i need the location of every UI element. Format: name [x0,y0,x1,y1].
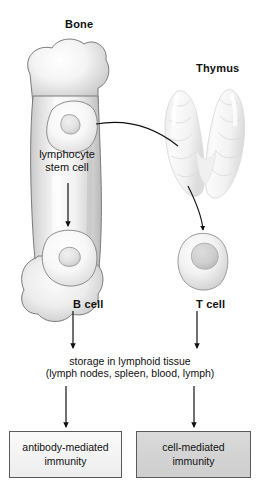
cell-mediated-immunity-text: cell-mediated immunity [137,432,250,477]
storage-label: storage in lymphoid tissue (lymph nodes,… [46,355,215,380]
t-cell-nucleus [191,243,218,269]
bone-label: Bone [65,18,93,31]
b-cell-label: B cell [73,298,104,311]
antibody-box-line2: immunity [44,455,86,467]
thymus-label: Thymus [196,62,239,75]
thymus-illustration [165,89,245,198]
cell-box-line1: cell-mediated [162,441,224,453]
thymus-left-lobe [165,91,205,197]
lymphocyte-stem-cell-label: lymphocyte stem cell [39,148,95,174]
stem-cell-label-line2: stem cell [39,161,95,174]
bone-proximal-head [28,39,109,104]
lymphocyte-stem-cell-illustration [47,101,98,153]
storage-label-line2: (lymph nodes, spleen, blood, lymph) [46,367,215,379]
stem-cell-nucleus [61,115,80,134]
thymus-right-lobe [205,89,244,198]
storage-label-line1: storage in lymphoid tissue [46,355,215,367]
antibody-mediated-immunity-box: antibody-mediated immunity [9,431,122,478]
cell-mediated-immunity-box: cell-mediated immunity [136,431,251,478]
stem-cell-label-line1: lymphocyte [39,148,95,161]
cell-box-line2: immunity [172,455,214,467]
b-cell-illustration [42,230,97,286]
t-cell-label: T cell [196,298,225,311]
diagram-canvas: Bone Thymus lymphocyte stem cell B cell … [0,0,260,496]
b-cell-nucleus [59,247,80,266]
antibody-box-line1: antibody-mediated [22,441,108,453]
antibody-mediated-immunity-text: antibody-mediated immunity [10,432,121,477]
t-cell-illustration [178,233,228,290]
